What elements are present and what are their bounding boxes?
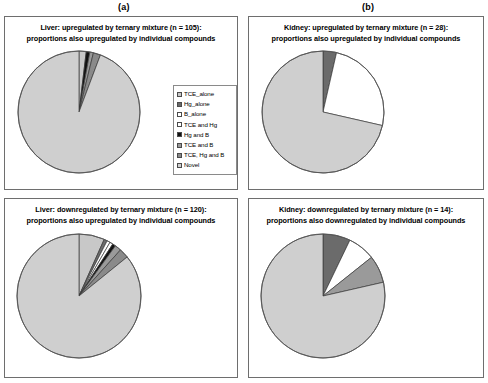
chart-title-liver-upregulated: Liver: upregulated by ternary mixture (n… [9, 23, 233, 44]
chart-title-line1: Liver: downregulated by ternary mixture … [9, 205, 233, 216]
legend-swatch-icon [177, 153, 182, 158]
legend-label: TCE, Hg and B [184, 152, 224, 158]
legend-swatch-icon [177, 163, 182, 168]
pie-chart-liver-downregulated [13, 231, 165, 363]
chart-title-kidney-upregulated: Kidney: upregulated by ternary mixture (… [253, 23, 479, 44]
chart-panel-kidney-upregulated: Kidney: upregulated by ternary mixture (… [248, 16, 484, 190]
chart-title-line2: proportions also upregulated by individu… [9, 34, 233, 45]
chart-title-line1: Liver: upregulated by ternary mixture (n… [9, 23, 233, 34]
legend-item: B_alone [177, 109, 233, 119]
chart-title-line1: Kidney: upregulated by ternary mixture (… [253, 23, 479, 34]
chart-title-liver-downregulated: Liver: downregulated by ternary mixture … [9, 205, 233, 226]
legend-item: Hg_alone [177, 99, 233, 109]
pie-svg [13, 49, 165, 177]
legend-label: Hg_alone [184, 101, 210, 107]
chart-title-line1: Kidney: downregulated by ternary mixture… [253, 205, 479, 216]
legend-swatch-icon [177, 132, 182, 137]
legend-item: TCE and B [177, 140, 233, 150]
legend-item: Hg and B [177, 130, 233, 140]
pie-svg [257, 49, 409, 177]
chart-title-line2: proportions also upregulated by individu… [253, 34, 479, 45]
panel-label-row: (a) (b) [0, 1, 488, 16]
legend-swatch-icon [177, 143, 182, 148]
legend-swatch-icon [177, 102, 182, 107]
legend-label: Hg and B [184, 132, 209, 138]
chart-panel-liver-downregulated: Liver: downregulated by ternary mixture … [4, 198, 238, 378]
legend-label: TCE and B [184, 142, 213, 148]
legend-item: TCE and Hg [177, 120, 233, 130]
pie-svg [257, 231, 409, 363]
panel-label-b: (b) [362, 2, 374, 12]
legend-label: TCE and Hg [184, 122, 217, 128]
figure-root: (a) (b) Liver: upregulated by ternary mi… [0, 0, 488, 383]
legend-swatch-icon [177, 112, 182, 117]
chart-panel-kidney-downregulated: Kidney: downregulated by ternary mixture… [248, 198, 484, 378]
pie-slice [18, 51, 140, 173]
legend-item: TCE_alone [177, 89, 233, 99]
legend-liver-upregulated: TCE_aloneHg_aloneB_aloneTCE and HgHg and… [173, 85, 237, 175]
legend-item: Novel [177, 160, 233, 170]
pie-chart-kidney-upregulated [257, 49, 409, 177]
legend-label: B_alone [184, 111, 206, 117]
legend-swatch-icon [177, 122, 182, 127]
panel-label-a: (a) [118, 2, 130, 12]
legend-label: TCE_alone [184, 91, 214, 97]
chart-title-line2: proportions also upregulated by individu… [9, 216, 233, 227]
chart-title-line2: proportions also downregulated by indivi… [253, 216, 479, 227]
chart-panel-liver-upregulated: Liver: upregulated by ternary mixture (n… [4, 16, 238, 190]
pie-chart-liver-upregulated [13, 49, 165, 177]
legend-label: Novel [184, 162, 199, 168]
pie-chart-kidney-downregulated [257, 231, 409, 363]
pie-svg [13, 231, 165, 363]
legend-swatch-icon [177, 92, 182, 97]
chart-title-kidney-downregulated: Kidney: downregulated by ternary mixture… [253, 205, 479, 226]
legend-item: TCE, Hg and B [177, 150, 233, 160]
